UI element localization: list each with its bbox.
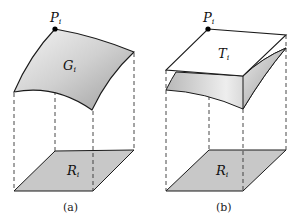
caption-b: (b) xyxy=(216,201,232,214)
surface-area-diagram: Pi Gi Ri (a) Pi Ti Ri (b) xyxy=(0,0,302,223)
caption-a: (a) xyxy=(63,201,78,214)
label-p-b: Pi xyxy=(202,10,215,26)
panel-a: Pi Gi Ri (a) xyxy=(14,10,134,214)
panel-b: Pi Ti Ri (b) xyxy=(166,10,286,214)
point-p-b xyxy=(205,26,210,31)
label-p-a: Pi xyxy=(49,10,62,26)
point-p-a xyxy=(52,26,57,31)
